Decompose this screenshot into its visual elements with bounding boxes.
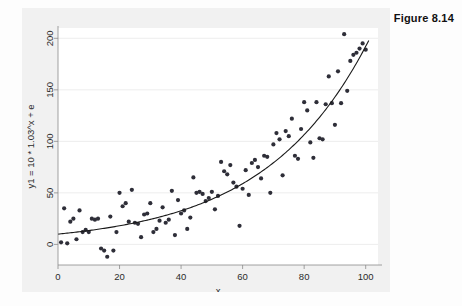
data-point — [228, 163, 232, 167]
y-tick-label-50: 50 — [45, 188, 56, 199]
data-point — [96, 217, 100, 221]
data-point — [357, 47, 361, 51]
data-point — [154, 227, 158, 231]
data-point — [256, 165, 260, 169]
data-point — [170, 189, 174, 193]
data-point — [145, 211, 149, 215]
scatter-plot-svg: 050100150200020406080100xy1 = 10 * 1.03^… — [22, 8, 390, 292]
data-point — [281, 173, 285, 177]
data-point — [127, 220, 131, 224]
data-point — [247, 193, 251, 197]
data-point — [157, 219, 161, 223]
data-point — [321, 137, 325, 141]
data-point — [259, 176, 263, 180]
figure-caption: Figure 8.14 — [394, 12, 454, 24]
data-point — [210, 190, 214, 194]
data-point — [354, 51, 358, 55]
data-point — [293, 154, 297, 158]
x-tick-label-20: 20 — [114, 271, 125, 282]
data-point — [176, 198, 180, 202]
x-tick-label-40: 40 — [176, 271, 187, 282]
data-point — [265, 155, 269, 159]
data-point — [173, 233, 177, 237]
data-point — [308, 140, 312, 144]
data-point — [124, 201, 128, 205]
data-point — [271, 142, 275, 146]
x-axis-title: x — [216, 285, 221, 292]
data-point — [274, 131, 278, 135]
data-point — [71, 217, 75, 221]
data-point — [102, 248, 106, 252]
data-point — [241, 187, 245, 191]
data-point — [108, 214, 112, 218]
data-point — [327, 74, 331, 78]
data-point — [185, 227, 189, 231]
data-point — [225, 172, 229, 176]
data-point — [253, 158, 257, 162]
data-point — [191, 175, 195, 179]
data-point — [111, 248, 115, 252]
data-point — [114, 230, 118, 234]
data-point — [290, 117, 294, 121]
data-point — [105, 255, 109, 259]
data-point — [296, 157, 300, 161]
data-point — [179, 211, 183, 215]
data-point — [345, 89, 349, 93]
data-point — [201, 192, 205, 196]
data-point — [130, 188, 134, 192]
data-point — [302, 100, 306, 104]
y-tick-label-150: 150 — [45, 82, 56, 98]
chart-panel: 050100150200020406080100xy1 = 10 * 1.03^… — [22, 8, 390, 292]
y-tick-label-0: 0 — [45, 242, 56, 247]
data-point — [305, 108, 309, 112]
data-point — [268, 191, 272, 195]
data-point — [117, 191, 121, 195]
data-point — [336, 69, 340, 73]
y-axis-title: y1 = 10 * 1.03^x + e — [25, 104, 36, 188]
data-point — [244, 168, 248, 172]
data-point — [148, 201, 152, 205]
data-point — [361, 41, 365, 45]
data-point — [342, 32, 346, 36]
data-point — [333, 123, 337, 127]
data-point — [314, 100, 318, 104]
data-point — [59, 240, 63, 244]
y-tick-label-100: 100 — [45, 133, 56, 149]
data-point — [339, 101, 343, 105]
data-point — [121, 204, 125, 208]
data-point — [311, 156, 315, 160]
data-point — [250, 161, 254, 165]
data-point — [287, 134, 291, 138]
figure-root: 050100150200020406080100xy1 = 10 * 1.03^… — [0, 0, 462, 306]
data-point — [237, 224, 241, 228]
grid-layer — [58, 28, 378, 265]
data-point — [77, 208, 81, 212]
x-tick-label-80: 80 — [299, 271, 310, 282]
data-point — [68, 220, 72, 224]
y-tick-label-200: 200 — [45, 30, 56, 46]
data-point — [324, 102, 328, 106]
data-point — [231, 180, 235, 184]
data-point — [164, 221, 168, 225]
data-point — [222, 169, 226, 173]
data-point — [299, 127, 303, 131]
data-point — [188, 216, 192, 220]
data-point — [139, 235, 143, 239]
data-point — [213, 207, 217, 211]
data-point — [151, 230, 155, 234]
data-point — [161, 205, 165, 209]
data-point — [219, 160, 223, 164]
plot-background — [58, 28, 378, 265]
x-tick-label-60: 60 — [237, 271, 248, 282]
data-point — [348, 59, 352, 63]
data-point — [284, 129, 288, 133]
data-point — [277, 137, 281, 141]
data-point — [167, 218, 171, 222]
data-point — [62, 206, 66, 210]
data-point — [65, 241, 69, 245]
x-tick-label-0: 0 — [55, 271, 60, 282]
data-point — [74, 237, 78, 241]
x-tick-label-100: 100 — [358, 271, 374, 282]
